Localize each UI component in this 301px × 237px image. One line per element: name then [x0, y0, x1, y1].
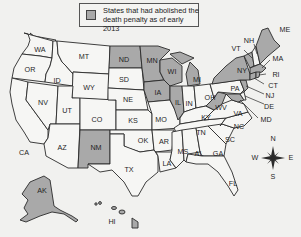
label-NH: NH [244, 36, 254, 45]
label-SD: SD [119, 75, 129, 84]
label-PA: PA [230, 84, 239, 93]
label-MT: MT [79, 52, 90, 61]
compass-n: N [270, 134, 275, 143]
label-ID: ID [53, 76, 60, 85]
label-VA: VA [233, 109, 242, 118]
state-AK[interactable] [20, 176, 78, 222]
label-OR: OR [25, 65, 36, 74]
label-ME: ME [280, 25, 291, 34]
label-NJ: NJ [266, 91, 275, 100]
label-IA: IA [155, 88, 162, 97]
legend-swatch [86, 10, 96, 20]
label-MN: MN [146, 56, 157, 65]
compass-w: W [252, 153, 259, 162]
label-MD: MD [260, 115, 271, 124]
label-WA: WA [34, 45, 46, 54]
label-OK: OK [138, 136, 149, 145]
label-CO: CO [92, 115, 103, 124]
label-VT: VT [231, 44, 241, 53]
label-MI: MI [193, 75, 201, 84]
label-NM: NM [90, 143, 101, 152]
label-OH: OH [205, 93, 216, 102]
label-NC: NC [234, 122, 244, 131]
compass-rose: N S E W [252, 134, 294, 181]
label-WY: WY [83, 83, 95, 92]
label-AK: AK [37, 186, 47, 195]
label-NE: NE [123, 95, 133, 104]
label-AL: AL [195, 149, 204, 158]
label-IL: IL [175, 98, 181, 107]
label-KY: KY [201, 113, 211, 122]
label-DE: DE [264, 102, 274, 111]
label-SC: SC [225, 135, 235, 144]
us-map: WA OR ID MT WY NV UT CA AZ CO NM ND SD N… [0, 0, 301, 237]
label-TX: TX [124, 165, 133, 174]
label-MO: MO [155, 115, 167, 124]
label-NY: NY [237, 66, 247, 75]
label-WI: WI [168, 67, 177, 76]
label-TN: TN [196, 128, 206, 137]
label-MS: MS [178, 147, 189, 156]
label-NV: NV [38, 98, 48, 107]
label-UT: UT [62, 106, 72, 115]
label-FL: FL [229, 179, 237, 188]
state-FL[interactable] [186, 154, 238, 196]
label-RI: RI [272, 70, 279, 79]
compass-e: E [289, 153, 294, 162]
label-ND: ND [119, 55, 129, 64]
label-AR: AR [159, 137, 169, 146]
label-HI: HI [108, 217, 115, 226]
label-WV: WV [215, 103, 227, 112]
label-CT: CT [268, 81, 278, 90]
label-KS: KS [128, 116, 138, 125]
label-IN: IN [185, 99, 192, 108]
label-AZ: AZ [57, 143, 67, 152]
legend-text: States that had abolished the death pena… [103, 6, 199, 33]
label-CA: CA [19, 148, 29, 157]
label-MA: MA [273, 54, 284, 63]
label-LA: LA [163, 159, 172, 168]
label-GA: GA [213, 149, 224, 158]
state-HI[interactable] [95, 202, 138, 228]
compass-s: S [271, 172, 276, 181]
map-legend: States that had abolished the death pena… [79, 3, 199, 27]
